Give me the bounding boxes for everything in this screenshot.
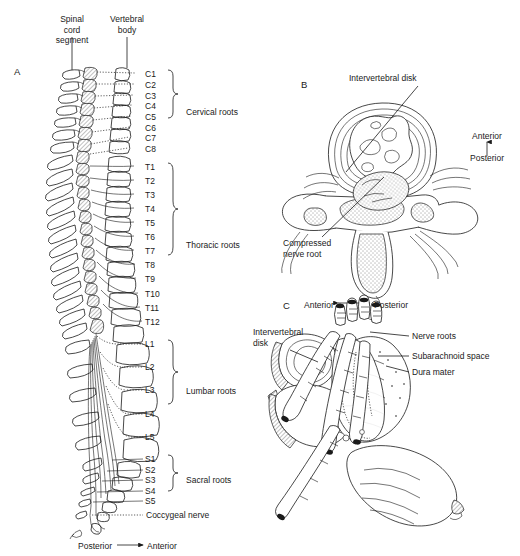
thoracic-vertebral-bodies	[105, 156, 144, 343]
group-braces	[168, 70, 178, 491]
spinal-level-s1: S1	[145, 454, 155, 465]
spinal-level-c3: C3	[145, 91, 156, 102]
callout-vertebral-body: Vertebral body	[101, 14, 153, 35]
spinal-level-c5: C5	[145, 112, 156, 123]
orientation-anterior-c: Anterior	[304, 300, 334, 311]
label-intervertebral-disk-b: Intervertebral disk	[349, 73, 417, 84]
spinal-level-s4: S4	[145, 486, 155, 497]
orientation-posterior-c: Posterior	[374, 300, 408, 311]
spinal-level-l5: L5	[145, 432, 154, 443]
lumbar-vertebral-bodies	[116, 343, 159, 462]
leader-nerve-roots	[370, 332, 409, 336]
spinal-level-t12: T12	[145, 317, 160, 328]
spinal-level-t4: T4	[145, 204, 155, 215]
spinal-level-c2: C2	[145, 80, 156, 91]
root-group-lumbar: Lumbar roots	[186, 386, 236, 397]
spinal-level-l4: L4	[145, 409, 154, 420]
panel-letter-a: A	[14, 66, 20, 77]
root-group-cervical: Cervical roots	[186, 107, 238, 118]
coccyx-tip	[72, 530, 82, 538]
spinal-level-s2: S2	[145, 465, 155, 476]
spinal-level-l3: L3	[145, 385, 154, 396]
spinal-level-s5: S5	[145, 496, 155, 507]
spinal-level-c4: C4	[145, 101, 156, 112]
spinal-level-t9: T9	[145, 274, 155, 285]
anatomy-illustration	[0, 0, 520, 556]
spinal-level-l1: L1	[145, 339, 154, 350]
spinal-level-t8: T8	[145, 260, 155, 271]
spinal-level-t7: T7	[145, 246, 155, 257]
spinal-level-t1: T1	[145, 162, 155, 173]
spinal-level-c6: C6	[145, 123, 156, 134]
spinal-level-t3: T3	[145, 190, 155, 201]
label-nerve-roots: Nerve roots	[412, 331, 456, 342]
label-coccygeal-nerve: Coccygeal nerve	[146, 510, 209, 521]
label-compressed-nerve-root: Compressed nerve root	[283, 238, 331, 259]
orientation-posterior-b: Posterior	[462, 153, 512, 164]
callout-spinal-cord-segment: Spinal cord segment	[46, 14, 98, 46]
panel-b-axial-vertebra	[282, 86, 487, 320]
figure-root: A B C Spinal cord segment Vertebral body…	[0, 0, 520, 556]
spinal-level-t11: T11	[145, 303, 159, 314]
spinal-level-t10: T10	[145, 289, 160, 300]
spinal-level-c1: C1	[145, 69, 156, 80]
panel-letter-b: B	[301, 79, 307, 90]
spinal-level-t5: T5	[145, 218, 155, 229]
cervical-vertebral-bodies	[109, 68, 131, 154]
spinal-level-s3: S3	[145, 475, 155, 486]
label-dura-mater: Dura mater	[412, 367, 455, 378]
spinal-level-t6: T6	[145, 232, 155, 243]
orientation-anterior-a: Anterior	[147, 541, 177, 552]
spinal-level-l2: L2	[145, 362, 154, 373]
root-group-thoracic: Thoracic roots	[186, 240, 240, 251]
label-subarachnoid-space: Subarachnoid space	[412, 351, 490, 362]
orientation-anterior-b: Anterior	[462, 131, 512, 142]
root-group-sacral: Sacral roots	[186, 475, 231, 486]
spinal-level-t2: T2	[145, 176, 155, 187]
orientation-posterior-a: Posterior	[78, 541, 112, 552]
label-intervertebral-disk-c: Intervertebral disk	[253, 327, 303, 348]
panel-letter-c: C	[283, 300, 290, 311]
spinal-level-c7: C7	[145, 133, 156, 144]
spinal-level-c8: C8	[145, 144, 156, 155]
